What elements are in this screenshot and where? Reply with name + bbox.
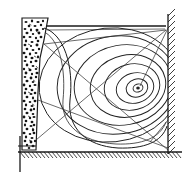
contour-level-4 — [84, 48, 171, 124]
right-wall-hatching — [168, 9, 175, 154]
radial-upper — [44, 30, 166, 44]
vortex-core-dot — [136, 87, 140, 90]
streamline-contours — [33, 21, 186, 149]
contour-level-3 — [68, 37, 178, 133]
contour-level-5 — [99, 58, 164, 116]
right-wall — [168, 9, 175, 154]
figure-caption — [0, 169, 192, 181]
contour-level-6 — [113, 68, 158, 107]
separating-streamline — [44, 28, 167, 148]
bottom-wall-hatching — [20, 152, 181, 158]
radial-lower — [38, 100, 168, 148]
bottom-wall — [18, 152, 182, 158]
contour-level-1 — [33, 21, 186, 149]
figure-root — [0, 0, 192, 181]
figure-canvas — [0, 0, 192, 181]
granular-zone — [22, 18, 48, 150]
